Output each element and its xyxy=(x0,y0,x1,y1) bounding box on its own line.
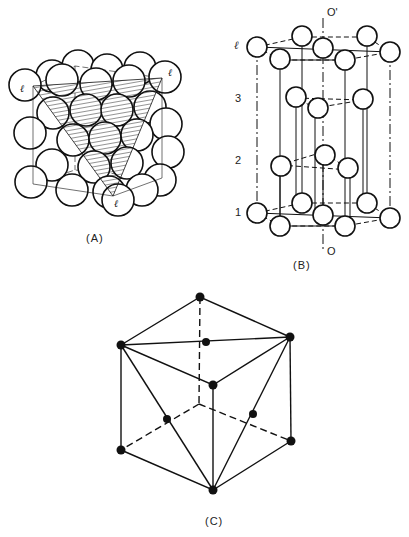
layer-label-2: 2 xyxy=(235,154,241,166)
axis-label-bottom: O xyxy=(327,245,336,257)
panel-c-cube-plane xyxy=(0,0,409,537)
layer-label-l: ℓ xyxy=(234,39,239,51)
caption-a: (A) xyxy=(86,232,104,244)
axis-label-top: O' xyxy=(327,6,338,18)
layer-label-1: 1 xyxy=(235,206,241,218)
caption-b: (B) xyxy=(293,259,311,271)
layer-label-3: 3 xyxy=(235,92,241,104)
caption-c: (C) xyxy=(205,515,223,527)
